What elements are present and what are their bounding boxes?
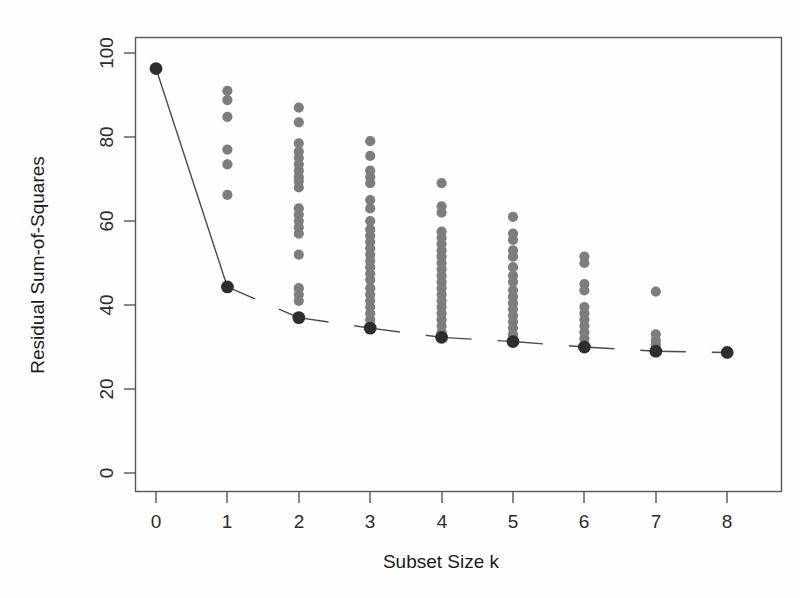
data-point [294, 103, 304, 113]
best-data-point [649, 345, 662, 358]
data-point [222, 86, 232, 96]
scatter-plot-canvas: 0 20 40 60 80 100 0 1 2 3 4 5 6 7 [0, 0, 800, 598]
data-point [579, 258, 589, 268]
data-point [508, 235, 518, 245]
best-data-point [150, 62, 163, 75]
x-tick-label-0: 0 [151, 511, 162, 532]
data-point [508, 252, 518, 262]
chart-figure: 0 20 40 60 80 100 0 1 2 3 4 5 6 7 [0, 0, 800, 598]
data-point [222, 190, 232, 200]
data-point [222, 95, 232, 105]
y-tick-label-60: 60 [96, 210, 117, 231]
y-tick-label-100: 100 [96, 37, 117, 69]
data-point [579, 285, 589, 295]
best-data-point [221, 281, 234, 294]
best-data-point [507, 335, 520, 348]
x-tick-label-5: 5 [508, 511, 519, 532]
data-point [651, 286, 661, 296]
x-tick-label-6: 6 [579, 511, 590, 532]
data-point [365, 203, 375, 213]
data-point [365, 136, 375, 146]
data-point [365, 178, 375, 188]
best-data-point [578, 341, 591, 354]
best-data-point [721, 346, 734, 359]
data-point [294, 250, 304, 260]
data-point [437, 208, 447, 218]
best-data-point [364, 322, 377, 335]
x-tick-label-2: 2 [294, 511, 305, 532]
data-point [294, 296, 304, 306]
data-point [222, 112, 232, 122]
data-point [294, 117, 304, 127]
data-point [222, 145, 232, 155]
y-tick-label-80: 80 [96, 126, 117, 147]
y-tick-label-20: 20 [96, 378, 117, 399]
data-point [294, 229, 304, 239]
x-axis-title: Subset Size k [383, 551, 500, 572]
x-tick-label-3: 3 [365, 511, 376, 532]
x-tick-label-7: 7 [651, 511, 662, 532]
y-tick-label-0: 0 [96, 468, 117, 479]
x-tick-label-4: 4 [437, 511, 448, 532]
plot-background [0, 0, 800, 598]
data-point [222, 159, 232, 169]
best-data-point [435, 331, 448, 344]
data-point [294, 182, 304, 192]
x-tick-label-1: 1 [222, 511, 233, 532]
data-point [365, 151, 375, 161]
best-data-point [292, 311, 305, 324]
x-tick-label-8: 8 [722, 511, 733, 532]
data-point [508, 212, 518, 222]
data-point [437, 178, 447, 188]
y-tick-label-40: 40 [96, 294, 117, 315]
y-axis-title: Residual Sum-of-Squares [27, 156, 48, 374]
